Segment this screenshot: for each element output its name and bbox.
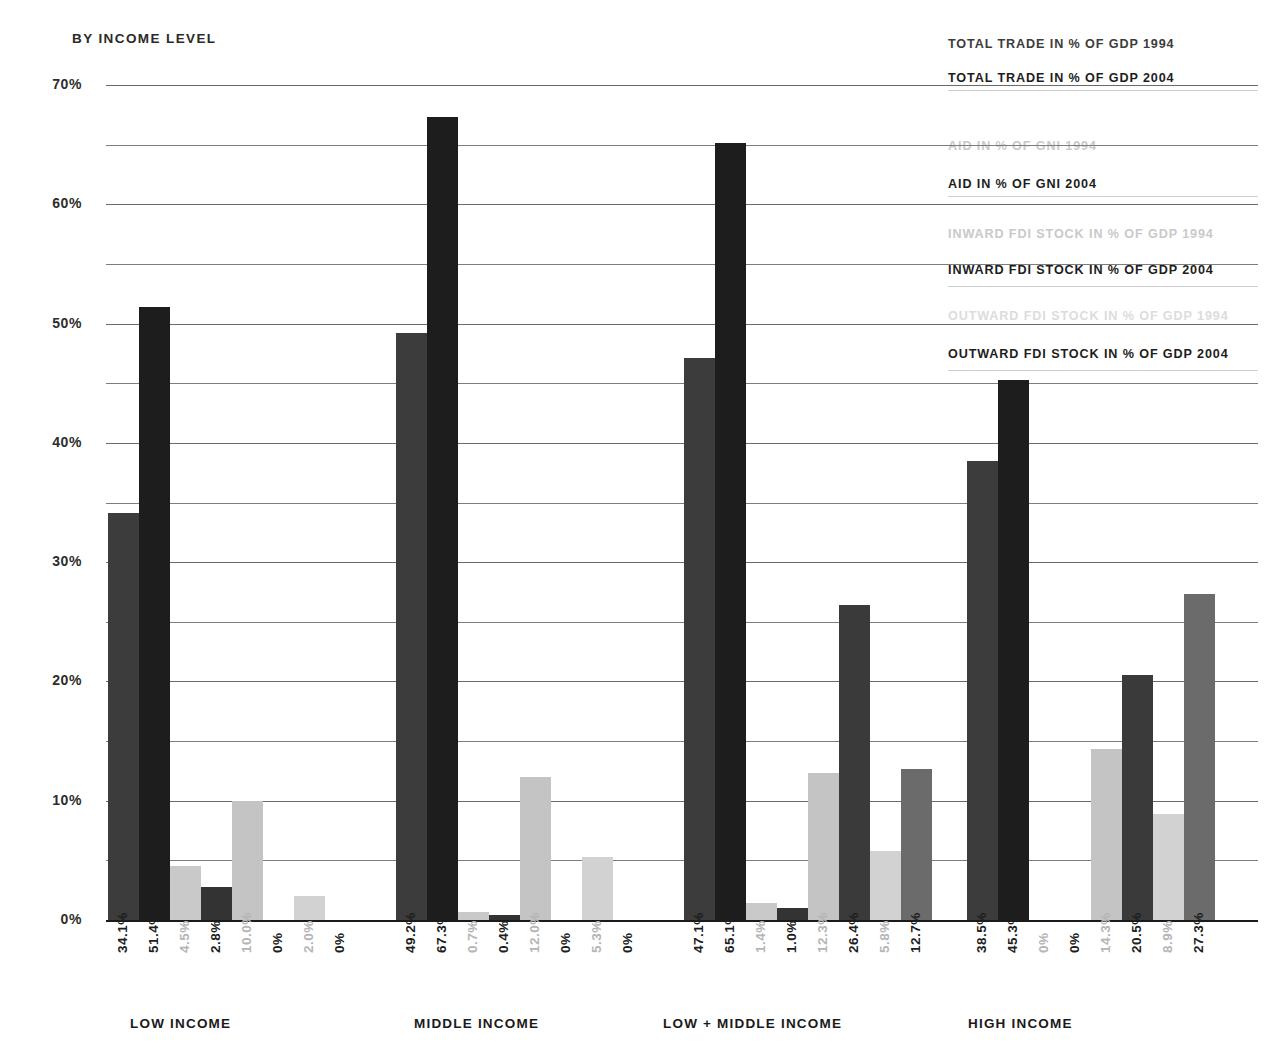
legend-item-2[interactable]: AID IN % OF GNI 1994 — [948, 140, 1097, 153]
value-label-g3-s2: 0% — [1036, 932, 1051, 953]
value-label-g2-s5: 26.4% — [846, 912, 861, 953]
legend-item-0[interactable]: TOTAL TRADE IN % OF GDP 1994 — [948, 38, 1175, 51]
value-label-g2-s6: 5.8% — [877, 920, 892, 953]
legend-item-1[interactable]: TOTAL TRADE IN % OF GDP 2004 — [948, 72, 1175, 85]
y-axis-tick-30: 30% — [18, 553, 82, 569]
gridline-35 — [106, 503, 1258, 504]
value-label-g1-s1: 67.3% — [434, 912, 449, 953]
value-label-g0-s1: 51.4% — [146, 912, 161, 953]
x-axis-baseline — [106, 920, 1258, 922]
gridline-55 — [106, 264, 1258, 265]
y-axis-tick-20: 20% — [18, 672, 82, 688]
chart-subtitle: BY INCOME LEVEL — [72, 31, 217, 46]
bar-g0-s1 — [139, 307, 170, 920]
value-label-g2-s7: 12.7% — [908, 912, 923, 953]
value-label-g2-s3: 1.0% — [784, 920, 799, 953]
value-label-g3-s3: 0% — [1067, 932, 1082, 953]
value-label-g0-s3: 2.8% — [208, 920, 223, 953]
gridline-60 — [106, 204, 1258, 205]
value-label-g1-s0: 49.2% — [403, 912, 418, 953]
gridline-65 — [106, 145, 1258, 146]
value-label-g3-s0: 38.5% — [974, 912, 989, 953]
chart-plot-area: BY INCOME LEVEL TOTAL TRADE IN % OF GDP … — [0, 0, 1287, 1053]
bar-g2-s5 — [839, 605, 870, 920]
category-label-3: HIGH INCOME — [968, 1016, 1073, 1031]
bar-g3-s0 — [967, 461, 998, 920]
y-axis-tick-10: 10% — [18, 792, 82, 808]
gridline-70 — [106, 85, 1258, 86]
value-label-g1-s5: 0% — [558, 932, 573, 953]
value-label-g2-s2: 1.4% — [753, 920, 768, 953]
category-label-1: MIDDLE INCOME — [414, 1016, 539, 1031]
value-label-g2-s1: 65.1% — [722, 912, 737, 953]
y-axis-tick-50: 50% — [18, 315, 82, 331]
bar-g3-s6 — [1153, 814, 1184, 920]
bar-g0-s6 — [294, 896, 325, 920]
bar-g1-s0 — [396, 333, 427, 920]
bar-g3-s7 — [1184, 594, 1215, 920]
value-label-g1-s2: 0.7% — [465, 920, 480, 953]
legend-divider-3 — [948, 370, 1258, 371]
gridline-15 — [106, 741, 1258, 742]
value-label-g2-s4: 12.3% — [815, 912, 830, 953]
bar-g2-s7 — [901, 769, 932, 920]
value-label-g0-s5: 0% — [270, 932, 285, 953]
bar-g2-s3 — [777, 908, 808, 920]
bar-g0-s3 — [201, 887, 232, 920]
legend-item-3[interactable]: AID IN % OF GNI 2004 — [948, 178, 1097, 191]
bar-g1-s6 — [582, 857, 613, 920]
bar-g0-s0 — [108, 513, 139, 920]
value-label-g3-s5: 20.5% — [1129, 912, 1144, 953]
value-label-g0-s6: 2.0% — [301, 920, 316, 953]
value-label-g3-s7: 27.3% — [1191, 912, 1206, 953]
bar-g2-s6 — [870, 851, 901, 920]
legend-item-5[interactable]: INWARD FDI STOCK IN % OF GDP 2004 — [948, 264, 1214, 277]
gridline-30 — [106, 562, 1258, 563]
bar-g1-s1 — [427, 117, 458, 920]
legend-item-4[interactable]: INWARD FDI STOCK IN % OF GDP 1994 — [948, 228, 1214, 241]
bar-g0-s4 — [232, 801, 263, 920]
bar-g1-s4 — [520, 777, 551, 920]
legend-divider-2 — [948, 286, 1258, 287]
value-label-g2-s0: 47.1% — [691, 912, 706, 953]
bar-g1-s2 — [458, 912, 489, 920]
legend-divider-1 — [948, 196, 1258, 197]
legend-item-6[interactable]: OUTWARD FDI STOCK IN % OF GDP 1994 — [948, 310, 1229, 323]
gridline-25 — [106, 622, 1258, 623]
bar-g2-s2 — [746, 903, 777, 920]
bar-g3-s5 — [1122, 675, 1153, 920]
value-label-g3-s6: 8.9% — [1160, 920, 1175, 953]
value-label-g0-s0: 34.1% — [115, 912, 130, 953]
value-label-g1-s7: 0% — [620, 932, 635, 953]
bar-g3-s4 — [1091, 749, 1122, 920]
bar-g2-s4 — [808, 773, 839, 920]
value-label-g1-s6: 5.3% — [589, 920, 604, 953]
y-axis-tick-60: 60% — [18, 195, 82, 211]
y-axis-tick-0: 0% — [18, 911, 82, 927]
gridline-40 — [106, 443, 1258, 444]
bar-g2-s1 — [715, 143, 746, 920]
category-label-2: LOW + MIDDLE INCOME — [663, 1016, 842, 1031]
category-label-0: LOW INCOME — [130, 1016, 231, 1031]
gridline-5 — [106, 860, 1258, 861]
gridline-45 — [106, 383, 1258, 384]
y-axis-tick-70: 70% — [18, 76, 82, 92]
value-label-g1-s4: 12.0% — [527, 912, 542, 953]
value-label-g1-s3: 0.4% — [496, 920, 511, 953]
bar-g2-s0 — [684, 358, 715, 920]
gridline-50 — [106, 324, 1258, 325]
bar-g3-s1 — [998, 380, 1029, 920]
y-axis-tick-40: 40% — [18, 434, 82, 450]
value-label-g0-s2: 4.5% — [177, 920, 192, 953]
value-label-g0-s4: 10.0% — [239, 912, 254, 953]
legend-item-7[interactable]: OUTWARD FDI STOCK IN % OF GDP 2004 — [948, 348, 1229, 361]
value-label-g3-s1: 45.3% — [1005, 912, 1020, 953]
legend-divider-0 — [948, 90, 1258, 91]
value-label-g0-s7: 0% — [332, 932, 347, 953]
gridline-10 — [106, 801, 1258, 802]
value-label-g3-s4: 14.3% — [1098, 912, 1113, 953]
bar-g0-s2 — [170, 866, 201, 920]
gridline-20 — [106, 681, 1258, 682]
